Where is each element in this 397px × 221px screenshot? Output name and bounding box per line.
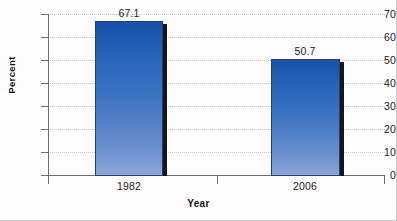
y-axis-title: Percent	[6, 56, 17, 94]
y-tick-60	[41, 37, 48, 38]
bar-chart: 70 60 50 40 30 20 10 0 67.1 50.7 1982 20…	[0, 0, 397, 221]
bar-shadow-2006	[340, 62, 344, 176]
x-category-label-1982: 1982	[89, 180, 169, 192]
bar-2006[interactable]	[271, 59, 340, 176]
y-axis-label-60: 60	[362, 31, 396, 43]
y-axis-label-30: 30	[362, 100, 396, 112]
y-axis-line	[48, 14, 49, 181]
y-axis-label-40: 40	[362, 77, 396, 89]
y-tick-0	[41, 175, 48, 176]
y-axis-label-20: 20	[362, 123, 396, 135]
bar-value-label-2006: 50.7	[265, 45, 345, 57]
bar-value-label-1982: 67.1	[89, 7, 169, 19]
x-category-label-2006: 2006	[265, 180, 345, 192]
y-axis-label-70: 70	[362, 8, 396, 20]
y-tick-20	[41, 129, 48, 130]
y-tick-30	[41, 106, 48, 107]
x-tick-start	[48, 175, 49, 184]
x-tick-middle	[217, 175, 218, 184]
y-tick-50	[41, 60, 48, 61]
y-axis-title-wrap: Percent	[1, 45, 19, 105]
x-tick-end	[384, 175, 385, 184]
y-tick-40	[41, 83, 48, 84]
bar-1982[interactable]	[95, 21, 163, 176]
x-axis-title: Year	[0, 198, 397, 209]
y-axis-label-10: 10	[362, 146, 396, 158]
y-axis-label-50: 50	[362, 54, 396, 66]
bar-shadow-1982	[163, 24, 167, 176]
y-tick-10	[41, 152, 48, 153]
y-tick-70	[41, 14, 48, 15]
